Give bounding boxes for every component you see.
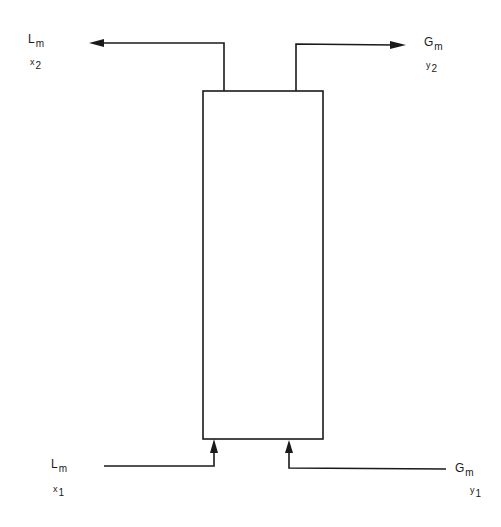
- column-diagram: [0, 0, 501, 527]
- gas-in-flow-label: Gm: [455, 462, 474, 474]
- gas-out-composition-label: y2: [426, 58, 437, 70]
- liquid-outlet-pipe: [100, 43, 224, 91]
- arrow-up-icon: [285, 440, 293, 453]
- liquid-in-flow-label: Lm: [51, 458, 67, 470]
- arrow-up-icon: [210, 439, 218, 453]
- gas-out-flow-label: Gm: [424, 36, 443, 48]
- column-body: [203, 91, 323, 439]
- gas-inlet-pipe: [289, 448, 446, 469]
- liquid-in-composition-label: x1: [53, 482, 64, 494]
- liquid-inlet-pipe: [104, 448, 214, 466]
- gas-in-composition-label: y1: [470, 483, 481, 495]
- liquid-out-composition-label: x2: [30, 55, 41, 67]
- arrow-left-icon: [89, 39, 104, 47]
- arrow-right-icon: [390, 41, 406, 49]
- gas-outlet-pipe: [296, 44, 395, 91]
- liquid-out-flow-label: Lm: [28, 33, 44, 45]
